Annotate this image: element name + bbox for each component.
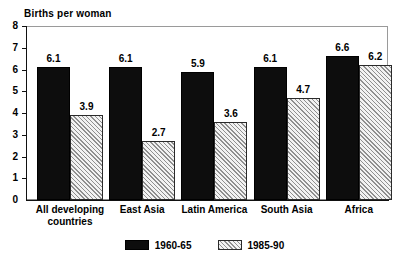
- bar-value-label: 6.2: [368, 51, 382, 63]
- chart-legend: 1960-651985-90: [0, 236, 409, 254]
- legend-swatch-light: [218, 240, 242, 250]
- bar[interactable]: 3.9: [70, 115, 103, 200]
- bar[interactable]: 6.6: [326, 56, 359, 200]
- bar[interactable]: 2.7: [142, 141, 175, 200]
- y-axis-tick-label: 5: [12, 85, 18, 96]
- bar-value-label: 6.1: [263, 53, 277, 65]
- bar-group: 6.66.2: [326, 26, 392, 200]
- bar-value-label: 6.1: [47, 53, 61, 65]
- y-axis-tick-label: 8: [12, 20, 18, 31]
- legend-label: 1985-90: [248, 240, 285, 251]
- bar[interactable]: 4.7: [287, 98, 320, 200]
- x-axis-line: [26, 200, 389, 201]
- plot-area: 6.13.96.12.75.93.66.14.76.66.2: [27, 26, 388, 200]
- y-axis-tick-mark: [22, 48, 26, 49]
- y-axis-tick-mark: [22, 91, 26, 92]
- bar[interactable]: 6.1: [37, 67, 70, 200]
- bar[interactable]: 6.1: [109, 67, 142, 200]
- bar-value-label: 4.7: [296, 84, 310, 96]
- legend-item[interactable]: 1985-90: [218, 240, 285, 251]
- legend-swatch-dark: [125, 240, 149, 250]
- bar[interactable]: 6.2: [359, 65, 392, 200]
- bar[interactable]: 6.1: [254, 67, 287, 200]
- bar-value-label: 3.9: [80, 101, 94, 113]
- y-axis-tick-mark: [22, 26, 26, 27]
- y-axis-tick-label: 7: [12, 42, 18, 53]
- bar[interactable]: 5.9: [181, 72, 214, 200]
- y-axis-tick-mark: [22, 113, 26, 114]
- chart-title: Births per woman: [24, 8, 112, 20]
- x-axis-category-label: Africa: [304, 204, 409, 216]
- y-axis-tick-label: 2: [12, 151, 18, 162]
- y-axis-tick-label: 3: [12, 129, 18, 140]
- bar-group: 6.13.9: [37, 26, 103, 200]
- bar-group: 6.14.7: [254, 26, 320, 200]
- bar-group: 5.93.6: [181, 26, 247, 200]
- legend-label: 1960-65: [155, 240, 192, 251]
- y-axis: 012345678: [0, 26, 26, 200]
- bar-value-label: 3.6: [224, 108, 238, 120]
- y-axis-tick-label: 1: [12, 172, 18, 183]
- legend-item[interactable]: 1960-65: [125, 240, 192, 251]
- y-axis-tick-mark: [22, 70, 26, 71]
- bar[interactable]: 3.6: [214, 122, 247, 200]
- bar-value-label: 6.1: [119, 53, 133, 65]
- x-axis-labels: All developing countriesEast AsiaLatin A…: [27, 204, 388, 232]
- y-axis-tick-mark: [22, 135, 26, 136]
- y-axis-tick-label: 6: [12, 64, 18, 75]
- y-axis-tick-label: 4: [12, 107, 18, 118]
- bar-value-label: 6.6: [335, 42, 349, 54]
- bar-value-label: 2.7: [152, 127, 166, 139]
- y-axis-tick-mark: [22, 178, 26, 179]
- y-axis-tick-mark: [22, 157, 26, 158]
- bar-group: 6.12.7: [109, 26, 175, 200]
- bar-value-label: 5.9: [191, 58, 205, 70]
- births-per-woman-bar-chart: Births per woman 012345678 6.13.96.12.75…: [0, 0, 409, 259]
